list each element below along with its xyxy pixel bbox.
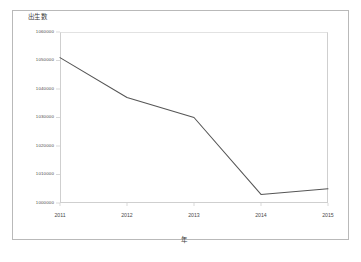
data-series-line	[60, 58, 328, 195]
x-axis-tick-marks	[60, 203, 328, 206]
y-axis-tick-marks	[56, 32, 60, 203]
chart-svg	[0, 0, 361, 262]
chart-figure: 出生数 1060000 1050000 1040000 1030000 1020…	[0, 0, 361, 262]
